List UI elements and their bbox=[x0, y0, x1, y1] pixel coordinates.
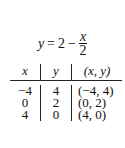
equation-lhs: y bbox=[38, 36, 44, 52]
fraction-numerator: x bbox=[79, 30, 87, 44]
values-table: x y (x, y) −4 4 (−4, 4) 0 2 (0, 2) 4 0 (… bbox=[10, 64, 122, 121]
cell-x: 4 bbox=[10, 109, 41, 121]
table-header: x y (x, y) bbox=[10, 64, 122, 81]
equation-constant: 2 bbox=[58, 36, 65, 52]
equals-sign: = bbox=[47, 36, 55, 52]
cell-xy: (4, 0) bbox=[72, 109, 122, 121]
header-xy: (x, y) bbox=[72, 64, 122, 80]
fraction-denominator: 2 bbox=[80, 44, 87, 57]
table-row: 4 0 (4, 0) bbox=[10, 109, 122, 121]
header-y: y bbox=[41, 64, 72, 80]
cell-y: 0 bbox=[41, 109, 72, 121]
fraction: x 2 bbox=[79, 30, 87, 57]
header-x: x bbox=[10, 64, 41, 80]
equation: y = 2 − x 2 bbox=[0, 30, 125, 57]
minus-sign: − bbox=[68, 36, 76, 52]
